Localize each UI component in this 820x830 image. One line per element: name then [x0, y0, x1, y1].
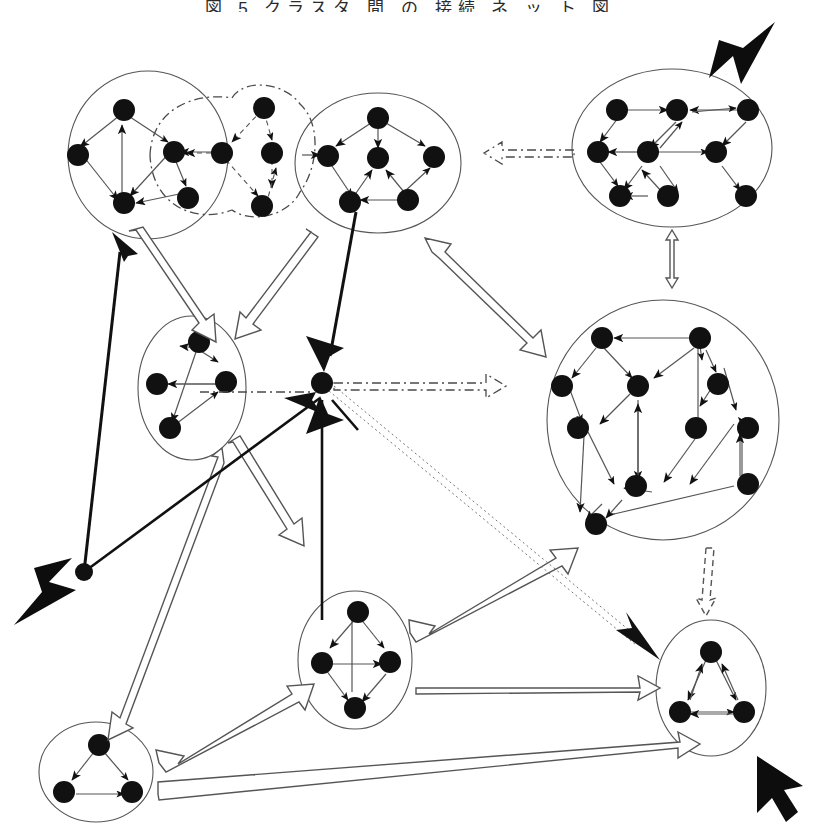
edges-left-middle	[164, 346, 222, 424]
hollow-arrow-tm-to-hub	[235, 229, 318, 339]
cursor-arrow-bottom-right	[757, 756, 803, 822]
cluster-group-bottom-middle	[298, 591, 412, 729]
dashdot-arrow-hub-to-right	[334, 374, 506, 398]
figure-canvas: 図 5 クラスタ 間 の 接続 ネ ッ ト 図	[0, 0, 820, 830]
solid-arrowhead-up	[112, 232, 138, 262]
cluster-group-top-right	[572, 69, 772, 227]
nodes-bottom-middle	[311, 601, 401, 719]
cursor-arrow-top-right	[709, 22, 775, 84]
cluster-group-top-middle	[295, 93, 461, 233]
edges-right-large	[570, 338, 742, 520]
dashed-arrow-rightlarge-to-br	[696, 548, 716, 616]
cluster-group-right-large	[547, 300, 779, 540]
edges-top-left	[80, 112, 216, 203]
hollow-arrow-hub-to-bottom	[228, 436, 304, 546]
hub-incoming-arrowhead-top	[306, 336, 344, 372]
edges-bottom-middle	[326, 618, 386, 702]
cluster-group-bottom-right	[656, 620, 766, 756]
nodes-top-right	[587, 99, 759, 207]
nodes-bottom-right	[669, 641, 755, 723]
cluster-group-top-left	[67, 71, 228, 239]
cluster-group-left-middle	[138, 316, 246, 460]
cluster-network-diagram	[0, 0, 820, 830]
hollow-arrow-bl-to-br	[158, 732, 700, 800]
dashdot-arrow-tr-to-tm	[484, 142, 574, 164]
edges-bottom-right	[688, 660, 738, 714]
nodes-top-middle	[317, 107, 445, 213]
cluster-outline-top-left	[68, 71, 228, 239]
hollow-arrow-left-to-bottomleft	[108, 448, 224, 740]
nodes-left-middle	[146, 331, 237, 439]
dotted-arrowhead	[616, 612, 660, 660]
solid-black-edges	[75, 212, 358, 620]
hollow-arrow-tl-to-left-cluster	[129, 227, 216, 342]
overlay-nodes	[211, 97, 283, 217]
cluster-group-bottom-left	[39, 722, 153, 822]
hollow-block-arrows	[108, 227, 716, 800]
dash-dot-arrows	[200, 142, 574, 398]
isolated-node-left	[75, 563, 93, 581]
cluster-outline-bottom-right	[656, 620, 766, 756]
hollow-arrow-bm-to-right-large	[409, 548, 578, 642]
central-hub-node	[311, 372, 333, 394]
hollow-arrow-bl-to-bm	[156, 684, 314, 772]
edges-bottom-left	[72, 752, 128, 794]
nodes-top-left	[67, 99, 199, 214]
dotted-arrow-hub-to-bottomright	[329, 386, 660, 660]
hollow-arrow-br-to-bm	[416, 676, 660, 700]
hollow-arrow-double-tm-right	[425, 238, 546, 357]
hollow-arrow-vertical-right	[666, 230, 678, 288]
cursor-arrow-bottom-left	[14, 558, 76, 625]
nodes-bottom-left	[53, 734, 143, 803]
nodes-right-large	[551, 327, 759, 535]
